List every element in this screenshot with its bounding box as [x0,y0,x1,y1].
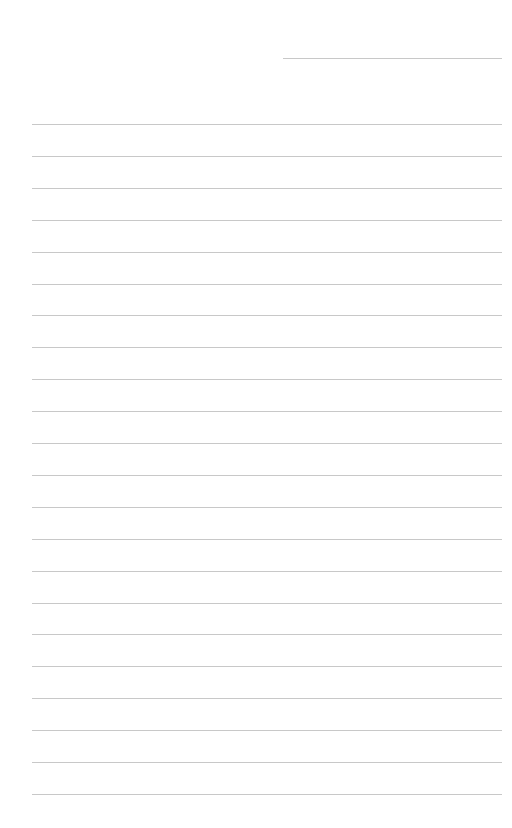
ruled-line [32,571,502,572]
ruled-line [32,603,502,604]
ruled-line [32,539,502,540]
ruled-line [32,730,502,731]
ruled-line [32,124,502,125]
ruled-line [32,347,502,348]
ruled-line [32,443,502,444]
ruled-line [32,315,502,316]
ruled-line [32,252,502,253]
ruled-line [32,666,502,667]
ruled-line [32,411,502,412]
ruled-line [32,284,502,285]
ruled-line [32,156,502,157]
ruled-line [32,794,502,795]
ruled-line [32,188,502,189]
ruled-line [32,762,502,763]
ruled-line [32,634,502,635]
header-date-line [283,58,502,59]
ruled-line [32,698,502,699]
ruled-line [32,379,502,380]
ruled-line [32,220,502,221]
ruled-line [32,507,502,508]
ruled-line [32,475,502,476]
lined-paper-page [0,0,512,828]
